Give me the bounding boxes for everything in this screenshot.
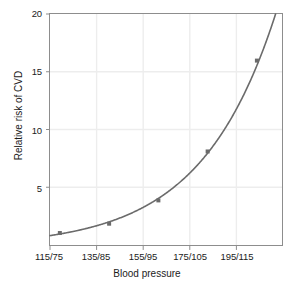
x-tick-label-115-75: 115/75 xyxy=(35,251,63,262)
x-tick-label-155-95: 155/95 xyxy=(129,251,157,262)
x-tick-label-135-85: 135/85 xyxy=(82,251,110,262)
chart-figure: 20 15 10 5 115/75 135/85 155/95 175/105 … xyxy=(0,0,294,290)
y-tick-label-20: 20 xyxy=(18,8,42,19)
y-axis-label: Relative risk of CVD xyxy=(13,36,24,196)
data-point-marker xyxy=(58,231,62,235)
x-tick-label-175-105: 175/105 xyxy=(173,251,207,262)
plot-area xyxy=(49,13,283,246)
data-point-marker xyxy=(107,222,111,226)
data-point-marker xyxy=(255,59,259,63)
x-tick-label-195-115: 195/115 xyxy=(221,251,254,262)
risk-curve-visible xyxy=(50,14,284,247)
data-point-marker xyxy=(156,198,160,202)
data-point-marker xyxy=(206,149,210,153)
cvd-risk-line xyxy=(50,14,276,236)
x-axis-label: Blood pressure xyxy=(0,268,294,279)
